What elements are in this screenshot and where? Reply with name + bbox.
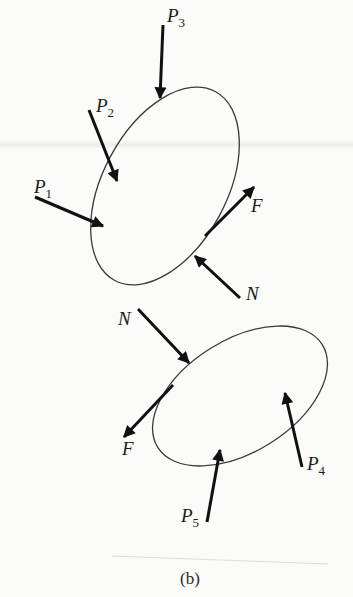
arrow-icon <box>195 256 240 298</box>
arrow-icon <box>89 110 117 181</box>
force-label: P2 <box>95 95 114 120</box>
arrow-icon <box>124 385 173 437</box>
upper-outline <box>60 62 270 309</box>
free-body-diagram: P3P2P1FN NFP5P4 (b) <box>0 0 353 597</box>
force-upper-p1: P1 <box>33 176 103 226</box>
force-upper-f: F <box>205 187 263 236</box>
force-label: P5 <box>180 505 199 530</box>
force-lower-p4: P4 <box>285 393 326 478</box>
force-lower-p5: P5 <box>180 450 220 530</box>
arrow-icon <box>160 25 163 98</box>
force-lower-n: N <box>117 308 189 363</box>
force-label: N <box>117 308 132 329</box>
force-label: P4 <box>306 453 326 478</box>
lower-body: NFP5P4 <box>117 297 352 530</box>
force-upper-n: N <box>195 256 260 304</box>
force-upper-p3: P3 <box>160 5 185 98</box>
force-label: P3 <box>166 5 185 30</box>
arrow-icon <box>138 309 189 363</box>
figure-caption: (b) <box>180 569 200 588</box>
force-lower-f: F <box>121 385 173 459</box>
caption-rule <box>112 556 328 564</box>
force-label: F <box>250 195 263 216</box>
arrow-icon <box>207 450 220 522</box>
force-label: F <box>121 438 134 459</box>
force-upper-p2: P2 <box>89 95 117 181</box>
force-label: N <box>245 283 260 304</box>
upper-body: P3P2P1FN <box>33 5 270 310</box>
arrow-icon <box>35 197 103 226</box>
